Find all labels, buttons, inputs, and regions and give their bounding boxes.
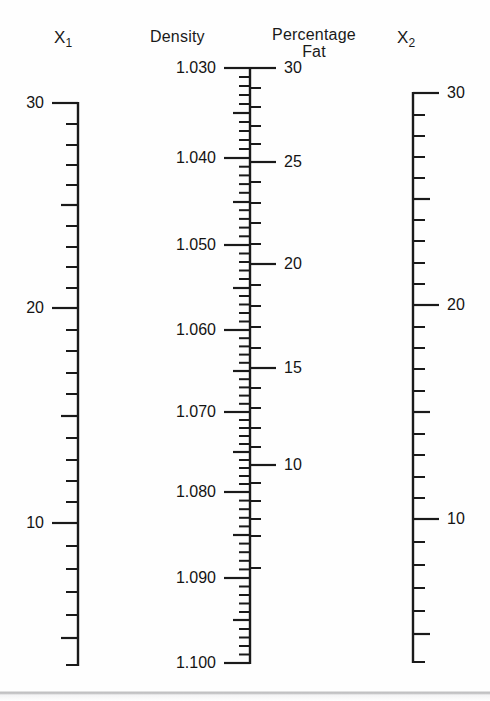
axis-title-fat-line1: Percentage: [272, 26, 356, 43]
tick-label-density-1.1: 1.100: [176, 655, 216, 671]
axis-title-fat-line2: Fat: [302, 43, 326, 60]
tick-label-density-1.07: 1.070: [176, 404, 216, 420]
axis-title-x1-subscript: 1: [66, 36, 73, 50]
tick-label-density-1.03: 1.030: [176, 60, 216, 76]
nomogram-canvas: [0, 0, 490, 701]
axis-title-x2-subscript: 2: [409, 36, 416, 50]
axis-title-x2: X2: [397, 28, 415, 50]
tick-label-fat-20: 20: [284, 256, 302, 272]
tick-label-x1-30: 30: [26, 95, 44, 111]
tick-label-x1-10: 10: [26, 515, 44, 531]
tick-label-x2-20: 20: [447, 297, 465, 313]
axis-title-fat: PercentageFat: [268, 26, 360, 60]
tick-label-density-1.05: 1.050: [176, 237, 216, 253]
tick-label-x2-30: 30: [447, 85, 465, 101]
tick-label-fat-15: 15: [284, 360, 302, 376]
axis-lines-group: [52, 67, 439, 666]
axis-title-x2-text: X: [397, 28, 409, 47]
axis-title-density: Density: [150, 28, 205, 46]
tick-label-density-1.08: 1.080: [176, 484, 216, 500]
page-edge-shadow: [0, 686, 490, 701]
axis-title-x1: X1: [54, 28, 72, 50]
tick-label-x2-10: 10: [447, 511, 465, 527]
tick-label-fat-25: 25: [284, 154, 302, 170]
tick-label-density-1.04: 1.040: [176, 150, 216, 166]
tick-label-fat-30: 30: [284, 60, 302, 76]
tick-label-x1-20: 20: [26, 300, 44, 316]
tick-label-density-1.06: 1.060: [176, 322, 216, 338]
axis-title-x1-text: X: [54, 28, 66, 47]
tick-label-fat-10: 10: [284, 457, 302, 473]
nomogram-figure: X1 Density PercentageFat X2 3020101.0301…: [0, 0, 490, 701]
tick-label-density-1.09: 1.090: [176, 570, 216, 586]
